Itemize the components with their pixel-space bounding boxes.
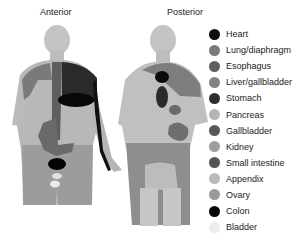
stomach-region-anterior <box>58 93 94 107</box>
legend-item-appendix: Appendix <box>209 171 292 187</box>
legend-item-colon: Colon <box>209 203 292 219</box>
legend-item-stomach: Stomach <box>209 90 292 106</box>
anterior-figure <box>12 25 122 205</box>
legend-item-heart: Heart <box>209 26 292 42</box>
bladder-region-anterior <box>50 181 60 188</box>
kidney-swatch-icon <box>209 141 220 152</box>
legend-item-small-intestine: Small intestine <box>209 155 292 171</box>
small-intestine-swatch-icon <box>209 157 220 168</box>
legend-item-bladder: Bladder <box>209 219 292 235</box>
esophagus-swatch-icon <box>209 61 220 72</box>
ovary-region-anterior <box>52 173 62 179</box>
legend-item-liver: Liver/gallbladder <box>209 74 292 90</box>
liver-swatch-icon <box>209 77 220 88</box>
colon-swatch-icon <box>209 206 220 217</box>
heart-region-posterior <box>155 71 169 83</box>
esophagus-region-posterior <box>156 86 168 108</box>
legend-item-lung: Lung/diaphragm <box>209 42 292 58</box>
gallbladder-swatch-icon <box>209 125 220 136</box>
legend-item-gallbladder: Gallbladder <box>209 123 292 139</box>
appendix-swatch-icon <box>209 173 220 184</box>
stomach-swatch-icon <box>209 93 220 104</box>
lung-swatch-icon <box>209 45 220 56</box>
pancreas-swatch-icon <box>209 109 220 120</box>
colon-region-anterior <box>48 158 66 170</box>
legend-item-esophagus: Esophagus <box>209 58 292 74</box>
legend-item-pancreas: Pancreas <box>209 106 292 122</box>
legend-item-kidney: Kidney <box>209 139 292 155</box>
bladder-swatch-icon <box>209 222 220 233</box>
heart-swatch-icon <box>209 29 220 40</box>
legend-item-ovary: Ovary <box>209 187 292 203</box>
posterior-figure <box>118 25 208 226</box>
gallbladder-region-posterior <box>169 105 181 115</box>
ovary-swatch-icon <box>209 189 220 200</box>
legend: Heart Lung/diaphragm Esophagus Liver/gal… <box>209 26 292 235</box>
